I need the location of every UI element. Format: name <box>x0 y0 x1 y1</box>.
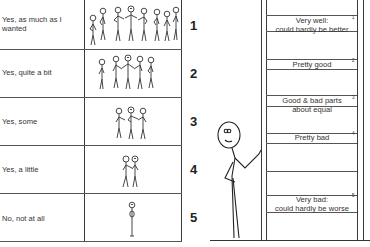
ladder-label-line1: Pretty bad <box>267 133 357 142</box>
option-label: Yes, a little <box>2 165 82 174</box>
large-group-stick-figures-icon <box>86 2 180 47</box>
ladder-rung <box>266 143 357 144</box>
ladder-rung <box>266 69 357 70</box>
option-number: 4 <box>190 162 197 177</box>
option-label: No, not at all <box>2 214 82 223</box>
ladder-label: Very well: could hardly be better <box>267 16 357 34</box>
ladder-number: 3 <box>352 95 355 100</box>
row-divider <box>0 49 182 50</box>
option-label: Yes, quite a bit <box>2 68 82 77</box>
ladder-label: Pretty bad <box>267 133 357 142</box>
option-number: 2 <box>190 66 197 81</box>
single-stick-figure-icon <box>126 200 138 240</box>
ladder-label: Pretty good <box>267 60 357 69</box>
table-bottom-border <box>0 241 182 242</box>
ladder-label-line1: Pretty good <box>267 60 357 69</box>
row-divider <box>0 145 182 146</box>
option-number: 3 <box>190 114 197 129</box>
small-group-stick-figures-icon <box>112 105 152 143</box>
ladder-label: Very bad: could hardly be worse <box>267 195 357 213</box>
ladder-number: 1 <box>352 15 355 20</box>
option-label: Yes, some <box>2 117 82 126</box>
ladder-number: 2 <box>352 58 355 63</box>
ladder-right-outer-rail <box>363 0 364 241</box>
table-column-divider <box>84 0 85 242</box>
ladder-rung <box>266 171 357 172</box>
ladder-number: 5 <box>352 193 355 198</box>
ladder-label-line1: Very well: <box>267 16 357 25</box>
table-right-border <box>181 0 182 242</box>
ladder-label: Good & bad parts about equal <box>267 96 357 114</box>
smiling-stick-figure-leaning-on-ladder-icon <box>215 118 265 242</box>
group-holding-hands-icon <box>96 54 166 94</box>
ladder-label-line1: Very bad: <box>267 195 357 204</box>
row-divider <box>0 97 182 98</box>
pair-stick-figures-icon <box>118 153 144 191</box>
row-divider <box>0 193 182 194</box>
ladder-label-line2: about equal <box>267 105 357 114</box>
ladder-label-line2: could hardly be worse <box>267 204 357 213</box>
ladder-right-inner-rail <box>357 0 358 241</box>
ladder-number: 4 <box>352 131 355 136</box>
ladder-label-line2: could hardly be better <box>267 25 357 34</box>
option-number: 5 <box>190 210 197 225</box>
ladder-label-line1: Good & bad parts <box>267 96 357 105</box>
option-number: 1 <box>190 18 197 33</box>
option-label: Yes, as much as I wanted <box>2 15 82 33</box>
